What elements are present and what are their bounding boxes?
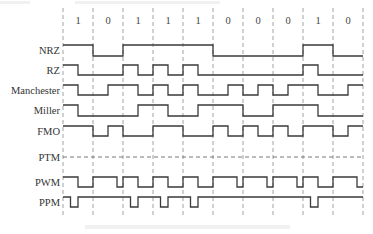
bit-value-label: 0 (255, 15, 260, 26)
bit-value-label: 1 (315, 15, 320, 26)
signal-label-ptm: PTM (38, 152, 60, 163)
signal-label-pwm: PWM (35, 177, 61, 188)
signal-label-rz: RZ (47, 65, 60, 76)
bit-value-label: 1 (165, 15, 170, 26)
bit-value-label: 1 (195, 15, 200, 26)
bit-value-label: 0 (345, 15, 350, 26)
signal-label-miller: Miller (34, 105, 61, 116)
bit-value-label: 1 (75, 15, 80, 26)
bit-value-label: 0 (105, 15, 110, 26)
bit-value-label: 0 (285, 15, 290, 26)
bit-value-label: 1 (135, 15, 140, 26)
signal-label-fmo: FMO (37, 126, 60, 137)
signal-labels: NRZRZManchesterMillerFMOPTMPWMPPM (11, 45, 61, 208)
line-coding-diagram: 1011100010 NRZRZManchesterMillerFMOPTMPW… (0, 0, 373, 234)
waveform-fmo (63, 126, 363, 136)
waveforms (63, 45, 363, 207)
signal-label-nrz: NRZ (39, 45, 60, 56)
waveform-pwm (63, 177, 363, 187)
faded-header-text (75, 1, 220, 4)
signal-label-ppm: PPM (39, 197, 61, 208)
bit-value-label: 0 (225, 15, 230, 26)
waveform-nrz (63, 45, 363, 56)
faded-header-text (0, 1, 30, 4)
signal-label-manchester: Manchester (11, 85, 60, 96)
faded-caption (85, 225, 290, 229)
